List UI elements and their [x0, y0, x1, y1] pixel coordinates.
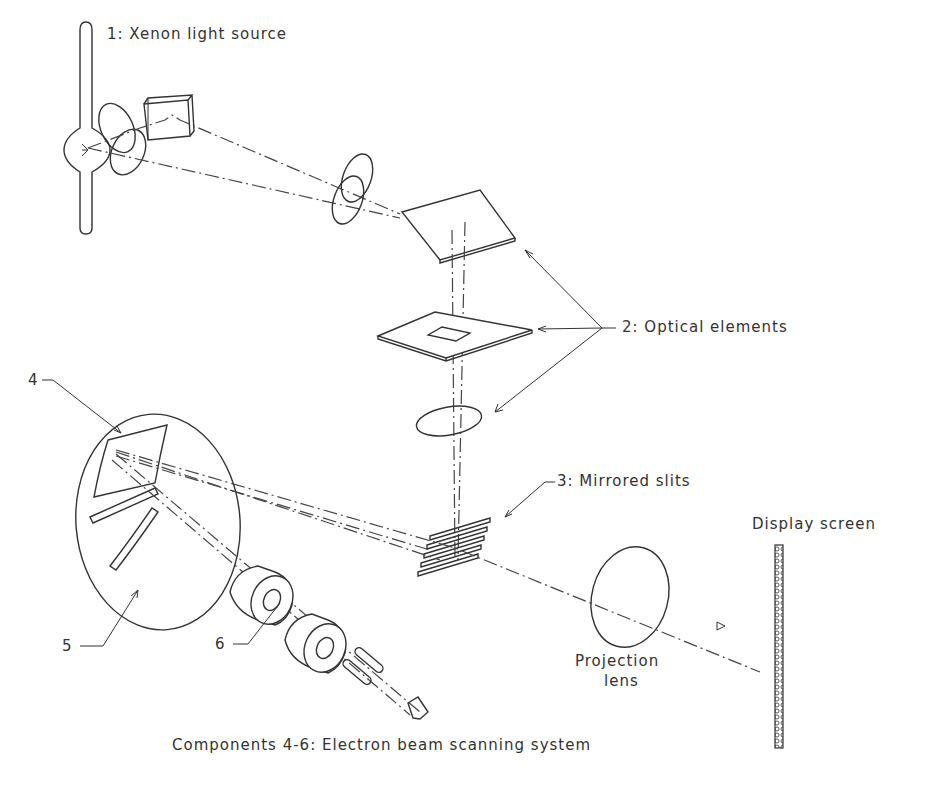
label-6: 6 [215, 635, 226, 653]
label-4: 4 [28, 371, 39, 389]
ray-arrow-icon [717, 622, 725, 630]
phosphor-target [67, 407, 249, 636]
mirror-plate [402, 190, 515, 263]
condensing-lens [414, 401, 484, 440]
label-projection-lens-2: lens [604, 672, 639, 690]
relay-lenses [326, 150, 378, 229]
leader-4 [42, 380, 121, 433]
label-light-source: 1: Xenon light source [107, 25, 287, 43]
label-projection-lens-1: Projection [575, 652, 659, 670]
leader-5 [80, 590, 138, 646]
label-5: 5 [62, 637, 73, 655]
aperture-plate [378, 312, 532, 361]
slits-leader [505, 482, 555, 517]
mirrored-slits [418, 518, 490, 576]
projection-lens [580, 538, 680, 656]
condenser-lenses [92, 98, 153, 181]
optical-diagram [0, 0, 925, 795]
mirror-block [144, 95, 194, 140]
deflection-coils [230, 566, 428, 719]
display-screen [775, 545, 783, 748]
label-display-screen: Display screen [752, 515, 876, 533]
caption: Components 4-6: Electron beam scanning s… [172, 736, 591, 754]
label-mirrored-slits: 3: Mirrored slits [557, 472, 691, 490]
xenon-lamp [64, 22, 110, 234]
label-optical-elements: 2: Optical elements [622, 318, 788, 336]
